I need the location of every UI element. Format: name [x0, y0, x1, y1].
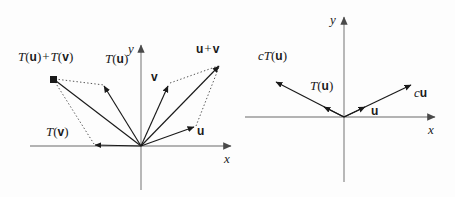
left-x-axis-label: x	[224, 152, 230, 165]
label-u-8: u	[420, 86, 427, 100]
point-marker-Tu-plus-Tv	[50, 76, 57, 83]
label-u-5: u	[275, 49, 282, 63]
label-paren-close-5: )	[283, 48, 287, 63]
label-u-plus-v: u+v	[196, 42, 219, 55]
figure-canvas	[0, 0, 455, 197]
left-y-axis-label-text: y	[128, 41, 134, 56]
vector-Tu-plus-Tv	[56, 81, 141, 146]
vector-Tu-right	[324, 107, 344, 117]
right-panel-axes	[245, 17, 435, 182]
vector-v	[141, 86, 168, 146]
label-paren-close-6: )	[329, 78, 333, 93]
label-u-7: u	[371, 104, 378, 118]
right-y-axis-label: y	[330, 13, 336, 26]
label-u-3: u	[197, 124, 204, 138]
label-u-2: u	[117, 52, 124, 66]
label-v-left: v	[151, 70, 158, 83]
left-panel-vectors	[50, 66, 219, 146]
label-Tu-plus-Tv: T(u)+T(v)	[18, 50, 73, 63]
label-T-2: T	[51, 49, 58, 64]
left-x-axis-label-text: x	[224, 151, 230, 166]
label-plus-2: +	[203, 41, 212, 56]
dotted-u-to-uplusv	[196, 67, 219, 126]
linear-transformation-figure: T(u)+T(v) T(u) T(v) v u u+v y x cT(u) T(…	[0, 0, 455, 197]
label-v-4: v	[213, 42, 220, 56]
label-u-right: u	[371, 104, 378, 117]
label-Tu-right: T(u)	[310, 79, 333, 92]
label-cTu: cT(u)	[258, 49, 287, 62]
label-Tu-left: T(u)	[105, 52, 128, 65]
label-Tv-left: T(v)	[46, 125, 69, 138]
label-paren-close-4: )	[64, 124, 68, 139]
label-paren-close-2: )	[69, 49, 73, 64]
label-u-left: u	[197, 124, 204, 137]
left-panel-axes	[30, 45, 231, 190]
left-panel-dotted-connectors	[55, 66, 219, 144]
label-u-6: u	[322, 79, 329, 93]
label-plus-1: +	[41, 49, 50, 64]
label-T-5: T	[264, 48, 271, 63]
dotted-sum-to-Tu	[55, 79, 104, 85]
label-cu: cu	[414, 86, 427, 99]
right-y-axis-label-text: y	[330, 12, 336, 27]
right-x-axis-label-text: x	[428, 122, 434, 137]
label-v-1: v	[62, 50, 69, 64]
vector-Tu	[104, 86, 141, 146]
label-u-1: u	[30, 50, 37, 64]
vector-u	[141, 127, 194, 146]
right-x-axis-label: x	[428, 123, 434, 136]
label-v-3: v	[151, 70, 158, 84]
left-y-axis-label: y	[128, 42, 134, 55]
